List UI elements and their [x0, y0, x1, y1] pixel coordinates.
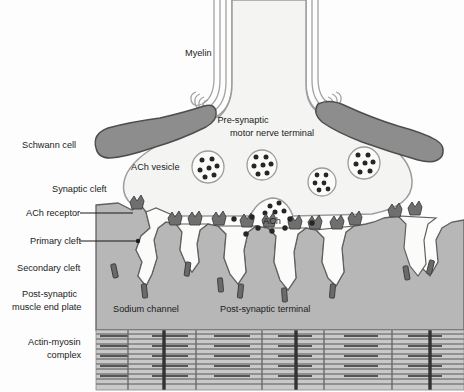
leader-dot-primary-cleft — [136, 239, 140, 243]
ach-vesicle — [247, 150, 277, 180]
label-ach-receptor: ACh receptor — [26, 208, 80, 218]
label-primary-cleft: Primary cleft — [30, 236, 81, 246]
neuromuscular-junction-figure: Myelin Pre-synaptic motor nerve terminal… — [0, 0, 464, 392]
sodium-channel — [217, 278, 223, 292]
ach-vesicle — [192, 151, 224, 183]
label-actin-myosin-line2: complex — [47, 350, 82, 360]
label-pre-synaptic-line1: Pre-synaptic — [217, 115, 268, 125]
diagram-canvas: Myelin Pre-synaptic motor nerve terminal… — [0, 0, 464, 392]
ach-dot — [287, 216, 292, 221]
ach-dot — [243, 231, 248, 236]
label-secondary-cleft: Secondary cleft — [17, 263, 81, 273]
sodium-channel — [237, 284, 243, 298]
label-post-synaptic-terminal: Post-synaptic terminal — [220, 304, 310, 314]
label-schwann-cell: Schwann cell — [22, 140, 76, 150]
ach-dot — [249, 214, 254, 219]
ach-dot — [282, 225, 287, 230]
label-ach-vesicle: ACh vesicle — [131, 162, 180, 172]
ach-dot — [231, 216, 236, 221]
ach-dot — [309, 220, 314, 225]
ach-vesicle — [308, 168, 336, 196]
sodium-channel — [329, 284, 335, 298]
ach-vesicle — [348, 147, 380, 179]
actin-myosin-complex — [96, 330, 464, 390]
sodium-channel — [282, 288, 288, 302]
label-post-synaptic-plate-line1: Post-synaptic — [22, 289, 78, 299]
ach-dot — [255, 225, 260, 230]
ach-dot — [269, 228, 274, 233]
label-actin-myosin-line1: Actin-myosin — [28, 337, 81, 347]
label-sodium-channel: Sodium channel — [113, 304, 179, 314]
label-ach: ACh — [263, 216, 281, 226]
label-pre-synaptic-line2: motor nerve terminal — [230, 128, 314, 138]
label-post-synaptic-plate-line2: muscle end plate — [12, 302, 81, 312]
label-synaptic-cleft: Synaptic cleft — [52, 184, 107, 194]
sodium-channel — [141, 284, 147, 298]
label-myelin: Myelin — [185, 48, 212, 58]
